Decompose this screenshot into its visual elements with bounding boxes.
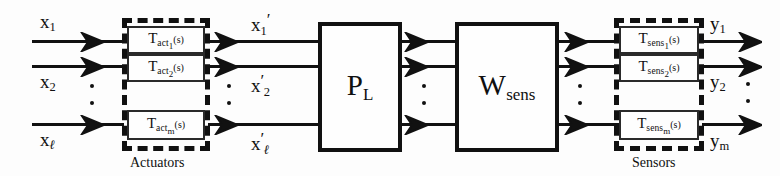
output-label-ym: ym bbox=[710, 131, 729, 153]
output-arrow-2 bbox=[736, 57, 762, 77]
plant-out-arrow-3 bbox=[402, 115, 428, 135]
sensors-caption: Sensors bbox=[632, 156, 676, 170]
mid-arrow-1 bbox=[212, 32, 238, 52]
intermediate-label-x2-prime: x′2 bbox=[251, 72, 270, 98]
input-arrow-1 bbox=[78, 32, 104, 52]
input-label-x1: x1 bbox=[40, 12, 56, 34]
sensor-block-1[interactable]: Tsens1(s) bbox=[619, 26, 699, 54]
sensor-in-ellipsis-dots bbox=[578, 84, 582, 105]
input-label-xl: xℓ bbox=[40, 130, 55, 151]
actuator-block-m[interactable]: Tactm(s) bbox=[127, 110, 205, 140]
mid-arrow-3 bbox=[212, 115, 238, 135]
weight-block-Wsens[interactable]: Wsens bbox=[455, 22, 559, 152]
sensor-block-2[interactable]: Tsens2(s) bbox=[619, 54, 699, 82]
output-ellipsis-dots bbox=[746, 82, 750, 103]
plant-block-PL[interactable]: PL bbox=[318, 22, 402, 152]
output-arrow-1 bbox=[736, 32, 762, 52]
input-label-x2: x2 bbox=[40, 72, 56, 94]
input-ellipsis-dots bbox=[90, 84, 94, 105]
intermediate-label-x1-prime: x1′ bbox=[251, 11, 270, 37]
sensor-block-m[interactable]: Tsensm(s) bbox=[619, 110, 699, 140]
input-arrow-2 bbox=[78, 57, 104, 77]
actuator-block-2[interactable]: Tact2(s) bbox=[127, 54, 205, 82]
intermediate-ellipsis-dots bbox=[227, 84, 231, 105]
actuator-block-1[interactable]: Tact1(s) bbox=[127, 26, 205, 54]
block-diagram: x1 x2 xℓ Tact1(s) Tact2(s) Tactm(s) Actu… bbox=[0, 0, 780, 176]
output-label-y1: y1 bbox=[710, 14, 726, 36]
mid-arrow-2 bbox=[212, 57, 238, 77]
input-arrow-3 bbox=[78, 115, 104, 135]
sensor-in-arrow-3 bbox=[562, 115, 588, 135]
sensor-in-arrow-1 bbox=[562, 32, 588, 52]
intermediate-label-xl-prime: x′ℓ bbox=[251, 130, 269, 156]
actuators-caption: Actuators bbox=[130, 156, 184, 170]
plant-out-arrow-2 bbox=[402, 57, 428, 77]
output-arrow-3 bbox=[736, 115, 762, 135]
sensor-in-arrow-2 bbox=[562, 57, 588, 77]
plant-out-arrow-1 bbox=[402, 32, 428, 52]
plant-out-ellipsis-dots bbox=[422, 84, 426, 105]
output-label-y2: y2 bbox=[710, 72, 726, 94]
